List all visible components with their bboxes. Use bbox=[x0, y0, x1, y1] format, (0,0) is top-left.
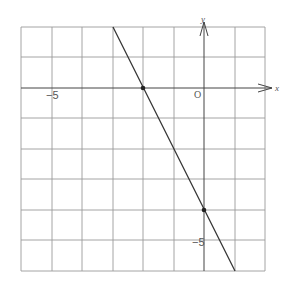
coordinate-plane: x y O −5 −5 bbox=[0, 0, 285, 284]
x-intercept-point bbox=[141, 86, 146, 91]
grid bbox=[21, 27, 265, 271]
x-axis-label: x bbox=[274, 83, 279, 93]
y-axis bbox=[200, 22, 208, 271]
x-tick-label-neg5: −5 bbox=[46, 89, 59, 101]
x-axis bbox=[21, 84, 272, 92]
y-axis-label: y bbox=[200, 14, 205, 24]
origin-label: O bbox=[194, 89, 201, 100]
y-tick-label-neg5: −5 bbox=[192, 236, 205, 248]
y-intercept-point bbox=[202, 208, 207, 213]
